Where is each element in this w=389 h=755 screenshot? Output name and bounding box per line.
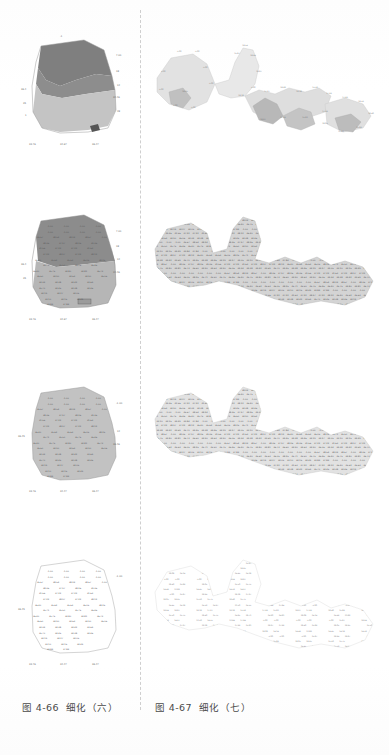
svg-text:35.50: 35.50 — [341, 263, 348, 266]
svg-text:34.81: 34.81 — [215, 415, 222, 418]
svg-text:34.80: 34.80 — [206, 298, 213, 301]
svg-text:36.60: 36.60 — [372, 232, 379, 235]
svg-text:37.97: 37.97 — [368, 228, 375, 231]
svg-text:36.05: 36.05 — [224, 254, 231, 257]
svg-text:-1.00: -1.00 — [350, 459, 356, 462]
svg-text:34.90: 34.90 — [291, 393, 298, 396]
svg-text:38.12: 38.12 — [327, 294, 334, 297]
svg-text:36.05: 36.05 — [273, 402, 280, 405]
svg-text:34.05: 34.05 — [73, 464, 80, 467]
svg-text:-1.00: -1.00 — [229, 420, 235, 423]
svg-text:-1.00: -1.00 — [206, 442, 212, 445]
svg-text:39.36: 39.36 — [296, 272, 303, 275]
svg-text:34.05: 34.05 — [368, 415, 375, 418]
svg-text:35.63: 35.63 — [174, 276, 181, 279]
svg-text:36.47: 36.47 — [92, 318, 99, 321]
svg-text:-1.00: -1.00 — [337, 429, 343, 432]
svg-text:37.22: 37.22 — [75, 598, 82, 601]
svg-text:36.40: 36.40 — [327, 285, 334, 288]
svg-text:-1.00: -1.00 — [195, 50, 201, 53]
svg-text:38.36: 38.36 — [359, 228, 366, 231]
svg-text:36.06: 36.06 — [179, 407, 186, 410]
svg-text:34.34: 34.34 — [188, 289, 195, 292]
svg-text:35.67: 35.67 — [183, 241, 190, 244]
svg-text:39.36: 39.36 — [345, 420, 352, 423]
svg-text:35.62: 35.62 — [255, 285, 262, 288]
svg-text:37.22: 37.22 — [273, 464, 280, 467]
svg-text:36.40: 36.40 — [368, 433, 375, 436]
svg-text:33.84: 33.84 — [334, 572, 340, 575]
svg-text:36.40: 36.40 — [287, 433, 294, 436]
svg-text:35.71: 35.71 — [242, 424, 249, 427]
svg-text:34.15: 34.15 — [165, 303, 172, 306]
svg-text:34.80: 34.80 — [345, 455, 352, 458]
svg-text:36.60: 36.60 — [233, 245, 240, 248]
svg-text:38.25: 38.25 — [372, 294, 379, 297]
svg-text:36.06: 36.06 — [269, 415, 276, 418]
svg-text:38.26: 38.26 — [287, 442, 294, 445]
svg-text:38.67: 38.67 — [251, 272, 258, 275]
svg-text:-1.00: -1.00 — [206, 272, 212, 275]
svg-text:34.15: 34.15 — [61, 470, 68, 473]
svg-text:34.42: 34.42 — [345, 223, 352, 226]
svg-text:34.67: 34.67 — [60, 143, 67, 146]
svg-text:37.22: 37.22 — [43, 253, 50, 256]
svg-text:18: 18 — [116, 245, 120, 248]
svg-text:-1.00: -1.00 — [157, 241, 163, 244]
svg-text:34.19: 34.19 — [219, 429, 226, 432]
svg-text:33.10: 33.10 — [197, 281, 204, 284]
svg-text:38.24: 38.24 — [69, 236, 76, 239]
svg-text:34.81: 34.81 — [264, 223, 271, 226]
svg-text:31.63: 31.63 — [242, 263, 249, 266]
svg-text:39.36: 39.36 — [345, 473, 352, 476]
svg-text:36.06: 36.06 — [269, 298, 276, 301]
svg-text:38.97: 38.97 — [59, 598, 66, 601]
svg-text:34.90: 34.90 — [361, 567, 367, 570]
svg-text:35.50: 35.50 — [300, 402, 307, 405]
svg-text:34.34: 34.34 — [327, 393, 334, 396]
svg-text:38.36: 38.36 — [359, 281, 366, 284]
svg-text:39.36: 39.36 — [255, 294, 262, 297]
svg-text:34.80: 34.80 — [165, 267, 172, 270]
svg-text:34.38: 34.38 — [71, 287, 78, 290]
map-right-3: -1.00-1.00-1.00-1.00-1.00-1.00-1.00-1.00… — [149, 375, 381, 495]
svg-text:37.22: 37.22 — [318, 411, 325, 414]
svg-text:37.22: 37.22 — [210, 455, 217, 458]
svg-text:38.24: 38.24 — [69, 581, 76, 584]
svg-text:34.63: 34.63 — [251, 245, 258, 248]
svg-text:-1.00: -1.00 — [260, 281, 266, 284]
svg-text:33.10: 33.10 — [45, 643, 52, 646]
svg-text:-1.00: -1.00 — [346, 429, 352, 432]
svg-text:-1.00: -1.00 — [47, 570, 53, 573]
svg-text:34.45: 34.45 — [55, 459, 62, 462]
svg-text:33.69: 33.69 — [213, 572, 219, 575]
svg-text:36.40: 36.40 — [268, 583, 274, 586]
svg-text:38.26: 38.26 — [246, 241, 253, 244]
svg-text:36.45: 36.45 — [18, 608, 25, 611]
svg-text:34.47: 34.47 — [60, 490, 67, 493]
svg-text:38.97: 38.97 — [59, 425, 66, 428]
svg-text:-1.00: -1.00 — [170, 389, 176, 392]
svg-text:34.45: 34.45 — [323, 415, 330, 418]
svg-text:38.26: 38.26 — [156, 402, 163, 405]
svg-text:34.15: 34.15 — [165, 250, 172, 253]
svg-text:34.42: 34.42 — [345, 393, 352, 396]
svg-text:35.71: 35.71 — [201, 446, 208, 449]
svg-text:34.90: 34.90 — [332, 254, 339, 257]
svg-text:35.62: 35.62 — [165, 223, 172, 226]
svg-text:34.49: 34.49 — [264, 259, 271, 262]
svg-text:38.67: 38.67 — [279, 562, 285, 565]
svg-text:38.12: 38.12 — [237, 402, 244, 405]
svg-text:37.22: 37.22 — [273, 294, 280, 297]
svg-text:31.63: 31.63 — [339, 578, 345, 581]
svg-text:34.34: 34.34 — [327, 223, 334, 226]
svg-text:31.56: 31.56 — [174, 232, 181, 235]
svg-text:35.75: 35.75 — [287, 424, 294, 427]
svg-text:33.10: 33.10 — [246, 259, 253, 262]
svg-text:37.22: 37.22 — [273, 241, 280, 244]
svg-text:35.63: 35.63 — [305, 263, 312, 266]
svg-text:36.40: 36.40 — [156, 393, 163, 396]
svg-text:35.63: 35.63 — [174, 393, 181, 396]
svg-text:-1.00: -1.00 — [220, 464, 226, 467]
svg-text:37.22: 37.22 — [228, 455, 235, 458]
